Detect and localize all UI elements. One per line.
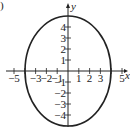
y-axis-label: y <box>70 0 76 12</box>
x-tick-label: 3 <box>98 72 104 84</box>
panel-label: ) <box>0 0 4 12</box>
ellipse-chart: ) x y −5−3−2−112354321−1−2−3−4 <box>0 0 130 131</box>
x-tick-label: −5 <box>8 72 20 84</box>
x-tick-label: 5 <box>119 72 125 84</box>
y-tick-label: 1 <box>61 54 67 66</box>
x-tick-label: 2 <box>87 72 93 84</box>
y-axis-arrow-icon <box>66 3 70 8</box>
x-tick-label: 1 <box>76 72 82 84</box>
y-tick-label: −4 <box>54 109 66 121</box>
x-axis-label: x <box>124 69 130 81</box>
